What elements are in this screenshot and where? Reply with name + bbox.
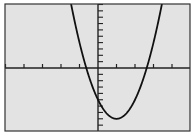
graph-screen (0, 0, 194, 140)
